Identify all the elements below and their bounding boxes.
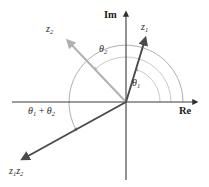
figure-canvas [0,0,209,187]
vector-z2 [69,42,127,103]
angle-label-sum-operator: + [36,105,47,116]
vector-label-z1-subscript: 1 [145,26,148,33]
vector-label-z1z2: z1z2 [9,166,23,178]
vector-label-z1z2-subscript2: 2 [20,170,23,177]
angle-label-theta2-subscript: 2 [104,48,107,55]
complex-plane-figure: Im Re z1 z2 z1z2 θ1 θ2 θ1 + θ2 [0,0,209,187]
vector-label-z1: z1 [141,22,148,34]
vector-label-z2-subscript: 2 [50,28,53,35]
vector-label-z2: z2 [46,24,53,36]
vector-z1 [126,40,145,103]
imaginary-axis-label: Im [104,10,117,21]
angle-label-theta2: θ2 [99,44,107,56]
angle-label-sum-subscript2: 2 [52,110,55,117]
real-axis-label: Re [179,106,191,117]
angle-label-theta1-plus-theta2: θ1 + θ2 [28,106,55,118]
angle-label-theta1: θ1 [132,78,140,90]
angle-label-theta1-subscript: 1 [137,82,140,89]
